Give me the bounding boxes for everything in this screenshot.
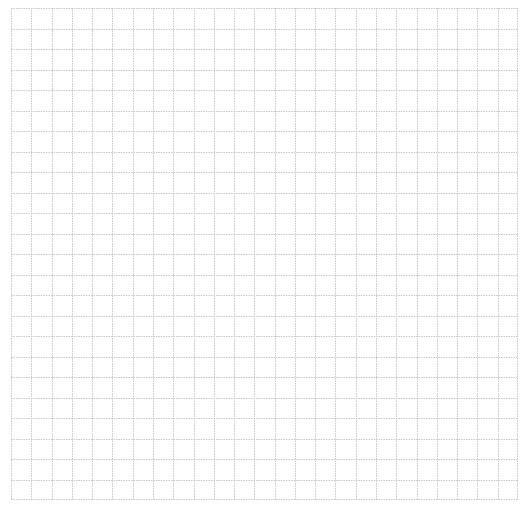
graph-paper-grid: [11, 8, 518, 500]
